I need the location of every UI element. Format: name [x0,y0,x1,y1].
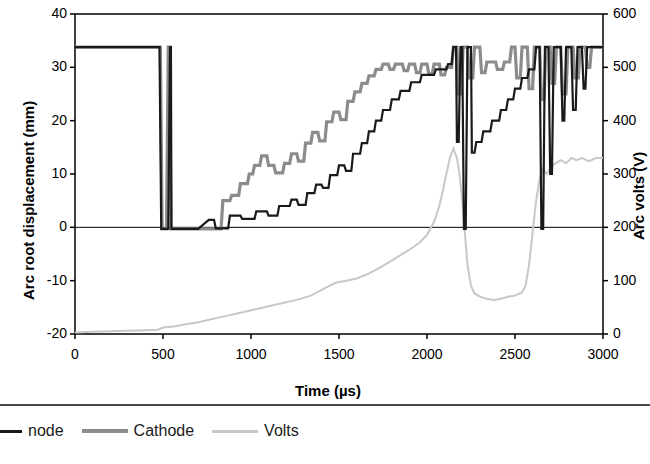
legend-label: node [28,422,64,440]
plot-frame [75,14,603,334]
legend-item: Volts [212,422,299,440]
legend-swatch-volts [212,430,258,433]
chart-container: Arc root displacement (mm) Arc volts (V)… [0,0,650,464]
legend-item: Cathode [82,422,195,440]
legend-item: node [0,422,64,440]
legend-swatch-node [0,430,22,433]
legend-label: Cathode [134,422,195,440]
legend-label: Volts [264,422,299,440]
legend-items: nodeCathodeVolts [0,422,317,440]
chart-legend: nodeCathodeVolts [0,404,650,464]
plot-area [0,0,650,464]
legend-swatch-cathode [82,429,128,433]
